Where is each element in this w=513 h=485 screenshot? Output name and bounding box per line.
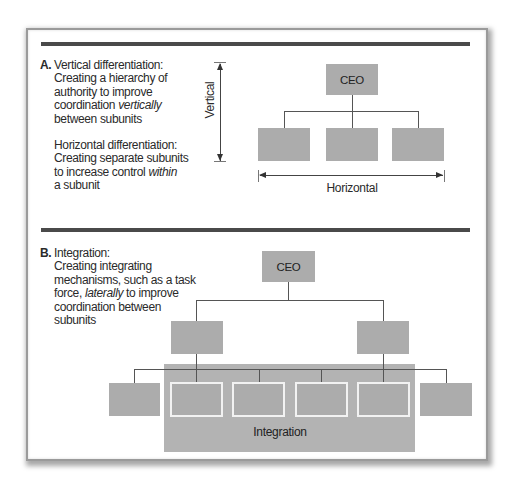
integrated-subunit-box [357,382,410,417]
connector [259,369,260,382]
vertical-diff-line: coordination vertically [54,99,204,112]
connector [284,111,285,128]
integration-line: coordination between [54,301,214,314]
connector [446,369,447,383]
horizontal-diff-line: Creating separate subunits [54,152,204,165]
divider-middle [41,228,470,232]
vertical-diff-line: between subunits [54,113,204,126]
connector [288,282,289,300]
connector [196,300,197,321]
manager-box-right [357,321,409,354]
horizontal-axis-label: Horizontal [302,181,402,195]
subunit-box [326,128,378,161]
arrow-left-icon [259,172,266,178]
integration-title: Integration: [54,247,214,260]
integrated-subunit-box [170,382,223,417]
manager-box-left [171,321,223,354]
connector [418,111,419,128]
vertical-diff-line: Creating a hierarchy of [54,72,204,85]
ceo-box-a: CEO [326,64,378,95]
connector [134,369,135,383]
vertical-diff-title: Vertical differentiation: [54,59,204,72]
vertical-axis-label: Vertical [203,75,217,125]
subunit-box [109,383,160,416]
panel-a-letter: A. [40,59,51,72]
integration-line: mechanisms, such as a task [54,274,214,287]
vertical-arrow-tick-bottom [214,161,226,162]
integrated-subunit-box [295,382,348,417]
vertical-diff-line: authority to improve [54,86,204,99]
integration-line: force, laterally to improve [54,287,214,300]
arrow-down-icon [217,154,223,161]
ceo-box-b: CEO [262,251,315,282]
subunit-box [420,383,472,416]
connector [134,369,447,370]
panel-b-letter: B. [40,247,51,260]
connector [383,300,384,321]
integrated-subunit-box [232,382,285,417]
arrow-right-icon [436,172,443,178]
connector [196,300,384,301]
panel-a-text: Vertical differentiation: Creating a hie… [54,59,204,193]
horizontal-arrow-tick-right [444,170,445,182]
panel-b-text: Integration: Creating integrating mechan… [54,247,214,327]
integration-line: Creating integrating [54,260,214,273]
horizontal-diff-line: to increase control within [54,166,204,179]
subunit-box [258,128,310,161]
arrow-up-icon [217,63,223,70]
connector [284,111,419,112]
connector [321,369,322,382]
connector [383,354,384,382]
horizontal-arrow-line [260,175,443,176]
vertical-arrow-line [220,64,221,161]
horizontal-diff-line: a subunit [54,179,204,192]
connector [196,354,197,382]
integration-label: Integration [240,425,320,439]
divider-top [41,42,470,46]
subunit-box [392,128,444,161]
horizontal-diff-title: Horizontal differentiation: [54,139,204,152]
